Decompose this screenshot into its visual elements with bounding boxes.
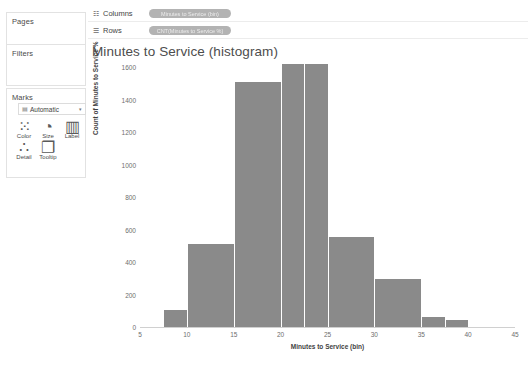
histogram-bar[interactable] — [304, 64, 327, 327]
marks-size-button[interactable]: ◔ Size — [36, 121, 60, 139]
marks-row-secondary: ∴ Detail ❐ Tooltip — [12, 142, 86, 160]
histogram-bar[interactable] — [374, 279, 421, 327]
x-tick-label: 30 — [371, 331, 378, 338]
y-tick-label: 0 — [132, 324, 136, 331]
color-icon: ⁙ — [18, 121, 31, 132]
columns-grid-icon: ☷ — [91, 10, 101, 18]
left-panel: Pages Filters Marks ▤ Automatic ▾ ⁙ Colo… — [0, 4, 88, 364]
filters-shelf[interactable]: Filters — [6, 44, 86, 86]
pill-rows[interactable]: CNT(Minutes to Service %) — [149, 26, 231, 35]
plot-area — [140, 67, 515, 327]
columns-shelf[interactable]: ☷ Columns Minutes to Service (bin) — [88, 6, 528, 22]
viz-canvas: Minutes to Service (histogram) Count of … — [88, 40, 528, 368]
histogram-bar[interactable] — [163, 310, 186, 327]
pages-label: Pages — [7, 13, 85, 26]
tooltip-icon: ❐ — [41, 142, 55, 153]
pages-shelf[interactable]: Pages — [6, 12, 86, 48]
histogram-bar[interactable] — [281, 64, 304, 327]
x-tick-label: 40 — [465, 331, 472, 338]
histogram-bar[interactable] — [234, 82, 281, 327]
x-tick-label: 45 — [511, 331, 518, 338]
rows-grid-icon: ☰ — [91, 27, 101, 35]
marks-type-icon: ▤ — [22, 106, 28, 112]
x-tick-label: 25 — [324, 331, 331, 338]
histogram-bar[interactable] — [328, 237, 375, 327]
shelf-container: ☷ Columns Minutes to Service (bin) ☰ Row… — [88, 6, 528, 40]
y-tick-label: 800 — [125, 194, 136, 201]
marks-label-button[interactable]: ▥ Label — [60, 121, 84, 139]
rows-shelf[interactable]: ☰ Rows CNT(Minutes to Service %) — [88, 23, 528, 39]
marks-tooltip-button[interactable]: ❐ Tooltip — [36, 142, 60, 160]
marks-detail-button[interactable]: ∴ Detail — [12, 142, 36, 160]
y-tick-label: 1000 — [122, 161, 136, 168]
filters-label: Filters — [7, 45, 85, 58]
x-tick-label: 5 — [138, 331, 142, 338]
marks-card: Marks ▤ Automatic ▾ ⁙ Color ◔ Size — [6, 88, 86, 178]
histogram-bar[interactable] — [421, 317, 444, 327]
x-axis-title[interactable]: Minutes to Service (bin) — [140, 343, 515, 350]
x-tick-label: 20 — [277, 331, 284, 338]
label-icon: ▥ — [65, 121, 80, 132]
y-tick-label: 400 — [125, 259, 136, 266]
marks-detail-label: Detail — [16, 154, 31, 160]
y-axis-ticks: 02004006008001000120014001600 — [88, 40, 136, 368]
columns-shelf-label: Columns — [103, 9, 149, 18]
marks-buttons: ⁙ Color ◔ Size ▥ Label ∴ Detail — [12, 121, 86, 163]
histogram-bar[interactable] — [187, 244, 234, 327]
detail-icon: ∴ — [19, 142, 29, 153]
histogram-bar[interactable] — [445, 320, 468, 327]
pill-columns[interactable]: Minutes to Service (bin) — [149, 9, 231, 18]
marks-label: Marks — [7, 89, 85, 102]
y-tick-label: 200 — [125, 291, 136, 298]
marks-label-label: Label — [65, 133, 80, 139]
x-tick-label: 35 — [418, 331, 425, 338]
x-axis-line — [140, 327, 515, 328]
y-tick-label: 1600 — [122, 64, 136, 71]
y-tick-label: 600 — [125, 226, 136, 233]
y-tick-label: 1200 — [122, 129, 136, 136]
x-tick-label: 10 — [183, 331, 190, 338]
y-tick-label: 1400 — [122, 96, 136, 103]
marks-type-dropdown[interactable]: ▤ Automatic ▾ — [18, 103, 86, 115]
size-icon: ◔ — [43, 121, 53, 132]
marks-row-primary: ⁙ Color ◔ Size ▥ Label — [12, 121, 86, 139]
tableau-worksheet: Pages Filters Marks ▤ Automatic ▾ ⁙ Colo… — [0, 0, 528, 368]
x-tick-label: 15 — [230, 331, 237, 338]
chevron-down-icon: ▾ — [79, 106, 82, 112]
rows-shelf-label: Rows — [103, 26, 149, 35]
marks-color-button[interactable]: ⁙ Color — [12, 121, 36, 139]
marks-tooltip-label: Tooltip — [39, 154, 56, 160]
marks-type-value: Automatic — [30, 106, 79, 113]
